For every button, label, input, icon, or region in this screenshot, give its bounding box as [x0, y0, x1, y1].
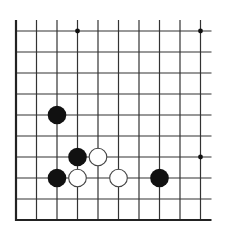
board-edges	[15, 20, 212, 221]
white-stone	[69, 169, 87, 187]
black-stone	[48, 169, 67, 188]
star-point-icon	[198, 29, 203, 34]
star-point-icon	[198, 155, 203, 160]
black-stone	[68, 148, 87, 167]
grid-lines	[16, 20, 212, 220]
go-board	[0, 0, 228, 243]
black-stone	[48, 106, 67, 125]
black-stone	[150, 169, 169, 188]
star-point-icon	[75, 29, 80, 34]
white-stone	[110, 169, 128, 187]
go-board-grid	[0, 0, 228, 243]
white-stone	[89, 148, 107, 166]
stones	[48, 106, 169, 188]
